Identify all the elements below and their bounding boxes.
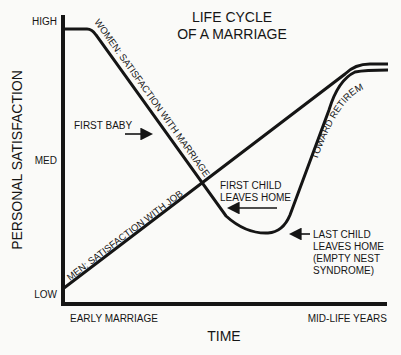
y-tick-med: MED xyxy=(35,155,57,166)
first-child-label-line1: FIRST CHILD xyxy=(220,180,282,191)
x-axis-label: TIME xyxy=(207,328,240,344)
men-line-label: MEN: SATISFACTION WITH JOB xyxy=(65,188,185,283)
last-child-label-line3: (EMPTY NEST xyxy=(313,253,380,264)
life-cycle-chart: LIFE CYCLE OF A MARRIAGE HIGH MED LOW PE… xyxy=(0,0,401,355)
x-tick-early-marriage: EARLY MARRIAGE xyxy=(70,313,158,324)
last-child-label-line2: LEAVES HOME xyxy=(313,241,384,252)
last-child-label-line1: LAST CHILD xyxy=(313,229,371,240)
first-child-label-line2: LEAVES HOME xyxy=(220,192,291,203)
y-axis-label: PERSONAL SATISFACTION xyxy=(9,70,25,250)
chart-title-line2: OF A MARRIAGE xyxy=(177,26,287,42)
chart-title-line1: LIFE CYCLE xyxy=(192,9,272,25)
y-tick-high: HIGH xyxy=(32,16,57,27)
first-baby-label: FIRST BABY xyxy=(74,120,132,131)
x-tick-mid-life: MID-LIFE YEARS xyxy=(308,313,388,324)
y-tick-low: LOW xyxy=(34,289,57,300)
last-child-label-line4: SYNDROME) xyxy=(313,265,374,276)
